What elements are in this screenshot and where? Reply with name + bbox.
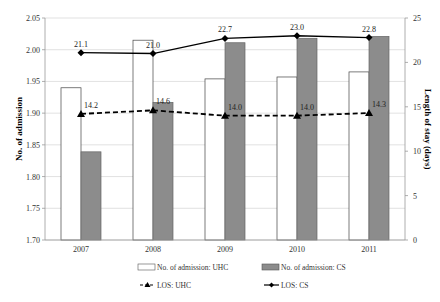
x-tick-label: 2008 — [145, 245, 161, 254]
data-label: 22.7 — [218, 25, 232, 34]
marker-diamond — [222, 35, 229, 42]
y-tick-label-right: 15 — [413, 103, 421, 112]
x-tick-label: 2009 — [217, 245, 233, 254]
y-tick-label-left: 2.05 — [26, 14, 40, 23]
bar-series — [61, 36, 389, 240]
bar-uhc — [349, 72, 369, 240]
chart: 1.701.751.801.851.901.952.002.0505101520… — [0, 0, 440, 302]
legend-label: LOS: CS — [281, 281, 308, 290]
x-tick-label: 2011 — [361, 245, 377, 254]
data-label: 22.8 — [362, 25, 376, 34]
y-tick-label-right: 10 — [413, 147, 421, 156]
data-label: 14.0 — [300, 103, 314, 112]
marker-diamond — [78, 49, 85, 56]
y-tick-label-left: 1.95 — [26, 77, 40, 86]
y-tick-label-left: 1.85 — [26, 141, 40, 150]
data-label: 14.2 — [84, 101, 98, 110]
y-tick-label-left: 1.90 — [26, 109, 40, 118]
y-tick-label-right: 20 — [413, 58, 421, 67]
bar-cs — [153, 102, 173, 240]
bar-uhc — [205, 79, 225, 240]
data-label: 14.3 — [372, 100, 386, 109]
legend: No. of admission: UHCNo. of admission: C… — [138, 263, 346, 290]
bar-uhc — [133, 40, 153, 240]
bar-cs — [81, 152, 101, 240]
y-tick-label-right: 25 — [413, 14, 421, 23]
legend-label: LOS: UHC — [157, 281, 191, 290]
y-tick-label-left: 1.75 — [26, 204, 40, 213]
data-label: 14.0 — [228, 103, 242, 112]
y-axis-right-title: Length of stay (days) — [423, 89, 433, 170]
x-tick-label: 2010 — [289, 245, 305, 254]
data-label: 21.1 — [74, 40, 88, 49]
legend-swatch — [138, 264, 155, 270]
x-tick-label: 2007 — [73, 245, 89, 254]
y-tick-label-left: 2.00 — [26, 46, 40, 55]
y-tick-label-left: 1.70 — [26, 236, 40, 245]
data-label: 23.0 — [290, 23, 304, 32]
y-tick-label-left: 1.80 — [26, 173, 40, 182]
legend-marker-diamond — [269, 283, 274, 288]
bar-cs — [225, 43, 245, 240]
bar-cs — [369, 36, 389, 240]
data-label: 14.6 — [156, 97, 170, 106]
y-tick-label-right: 5 — [413, 192, 417, 201]
bar-uhc — [277, 77, 297, 240]
legend-label: No. of admission: UHC — [157, 263, 228, 272]
bar-cs — [297, 38, 317, 240]
legend-label: No. of admission: CS — [281, 263, 346, 272]
bar-uhc — [61, 88, 81, 240]
y-axis-left-title: No. of admission — [14, 97, 24, 161]
data-label: 21.0 — [146, 41, 160, 50]
y-tick-label-right: 0 — [413, 236, 417, 245]
legend-swatch — [262, 264, 279, 270]
